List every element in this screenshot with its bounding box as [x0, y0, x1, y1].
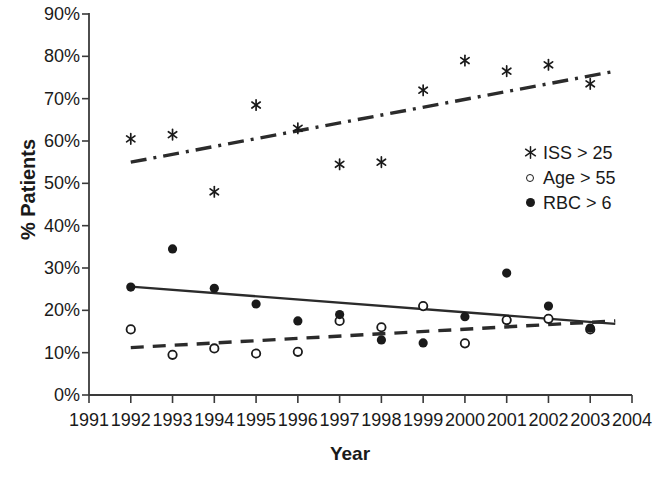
data-point-asterisk	[419, 85, 427, 95]
open-circle-icon	[520, 174, 540, 182]
legend-label-iss: ISS > 25	[540, 144, 613, 162]
data-point-filled-circle	[126, 282, 135, 291]
data-point-open-circle	[377, 323, 385, 331]
legend-label-rbc: RBC > 6	[540, 194, 612, 212]
data-point-open-circle	[461, 339, 469, 347]
legend-item-rbc: RBC > 6	[520, 190, 616, 215]
data-point-filled-circle	[419, 338, 428, 347]
data-point-open-circle	[419, 302, 427, 310]
data-point-filled-circle	[502, 268, 511, 277]
data-point-open-circle	[168, 351, 176, 359]
data-point-filled-circle	[251, 299, 260, 308]
data-point-asterisk	[377, 157, 385, 167]
data-point-filled-circle	[293, 316, 302, 325]
data-point-asterisk	[461, 55, 469, 65]
data-point-open-circle	[294, 348, 302, 356]
data-point-open-circle	[210, 344, 218, 352]
trend-line-filled-circle	[131, 287, 616, 324]
data-point-asterisk	[503, 66, 511, 76]
data-point-asterisk	[127, 134, 135, 144]
legend-item-age: Age > 55	[520, 165, 616, 190]
plot-area	[0, 0, 664, 477]
data-point-asterisk	[586, 79, 594, 89]
data-point-asterisk	[544, 60, 552, 70]
data-point-open-circle	[544, 315, 552, 323]
legend: ISS > 25 Age > 55 RBC > 6	[520, 140, 616, 215]
trend-line-open-circle	[131, 321, 616, 348]
data-point-asterisk	[210, 187, 218, 197]
data-point-open-circle	[127, 325, 135, 333]
filled-circle-icon	[520, 198, 540, 207]
data-point-filled-circle	[460, 312, 469, 321]
x-axis-title: Year	[0, 443, 664, 465]
asterisk-icon	[520, 146, 540, 159]
data-point-asterisk	[168, 129, 176, 139]
legend-label-age: Age > 55	[540, 169, 616, 187]
data-point-filled-circle	[168, 244, 177, 253]
data-point-filled-circle	[210, 284, 219, 293]
data-point-filled-circle	[586, 324, 595, 333]
chart-container: % Patients 0%10%20%30%40%50%60%70%80%90%…	[0, 0, 664, 477]
data-point-open-circle	[252, 349, 260, 357]
data-point-asterisk	[335, 159, 343, 169]
data-point-asterisk	[252, 100, 260, 110]
legend-item-iss: ISS > 25	[520, 140, 616, 165]
data-point-filled-circle	[377, 335, 386, 344]
data-point-filled-circle	[544, 302, 553, 311]
data-point-open-circle	[502, 316, 510, 324]
data-point-filled-circle	[335, 310, 344, 319]
